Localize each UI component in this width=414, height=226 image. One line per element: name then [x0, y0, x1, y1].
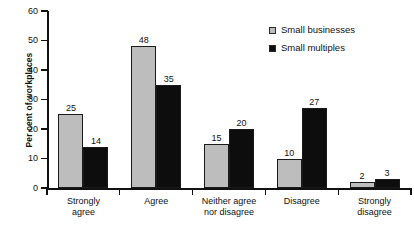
- bar-group: 4835: [120, 11, 193, 188]
- x-axis-category-label: Agree: [120, 196, 193, 207]
- bar-value-label: 48: [139, 36, 149, 45]
- y-axis-tick-label: 40: [0, 66, 38, 75]
- bar-value-label: 10: [284, 149, 294, 158]
- bar: 3: [375, 179, 400, 188]
- bar: 35: [156, 85, 181, 188]
- x-axis-tick: [119, 188, 120, 195]
- y-axis-tick-label: 0: [0, 184, 38, 193]
- x-axis-category-label: Strongly disagree: [338, 196, 411, 218]
- legend-swatch-icon: [269, 45, 276, 52]
- legend-item-small-businesses: Small businesses: [269, 21, 355, 39]
- x-axis-tick: [265, 188, 266, 195]
- legend: Small businesses Small multiples: [269, 21, 355, 57]
- bar-value-label: 35: [164, 75, 174, 84]
- y-axis-tick-label: 10: [0, 154, 38, 163]
- x-axis-tick: [192, 188, 193, 195]
- bar-value-label: 20: [236, 119, 246, 128]
- legend-swatch-icon: [269, 27, 276, 34]
- y-axis-tick-label: 20: [0, 125, 38, 134]
- bar: 20: [229, 129, 254, 188]
- x-axis-category-label: Neither agree nor disagree: [193, 196, 266, 218]
- bar-value-label: 14: [91, 137, 101, 146]
- bar-group: 1520: [193, 11, 266, 188]
- bar-value-label: 2: [360, 172, 365, 181]
- bar: 25: [58, 114, 83, 188]
- x-axis-tick: [338, 188, 339, 195]
- bar-value-label: 15: [211, 134, 221, 143]
- legend-item-small-multiples: Small multiples: [269, 39, 355, 57]
- plot-area: 251448351520102723: [47, 11, 411, 188]
- x-axis-line: [47, 188, 411, 190]
- x-axis-category-label: Strongly agree: [47, 196, 120, 218]
- x-axis-category-label: Disagree: [265, 196, 338, 207]
- x-axis-tick: [46, 188, 47, 195]
- legend-label: Small businesses: [281, 25, 355, 35]
- bar-value-label: 25: [66, 104, 76, 113]
- bar: 14: [83, 147, 108, 188]
- bar: 27: [302, 108, 327, 188]
- legend-label: Small multiples: [281, 43, 345, 53]
- bar-chart: Per cent of workplaces 0102030405060 251…: [0, 0, 414, 226]
- y-axis-tick-label: 50: [0, 36, 38, 45]
- bar: 15: [204, 144, 229, 188]
- bar: 48: [131, 46, 156, 188]
- bar-group: 2514: [47, 11, 120, 188]
- y-axis-tick-label: 30: [0, 95, 38, 104]
- bar-value-label: 3: [385, 169, 390, 178]
- bar: 2: [350, 182, 375, 188]
- y-axis-tick-label: 60: [0, 7, 38, 16]
- bar-value-label: 27: [309, 98, 319, 107]
- bar: 10: [277, 159, 302, 189]
- x-axis-tick: [410, 188, 411, 195]
